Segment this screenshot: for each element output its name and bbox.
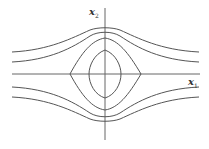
phase-portrait-svg [0, 0, 209, 149]
x2-axis-label: x2 [89, 7, 99, 19]
x1-axis-label: x1 [188, 77, 198, 89]
phase-portrait-diagram: x2 x1 [0, 0, 209, 149]
